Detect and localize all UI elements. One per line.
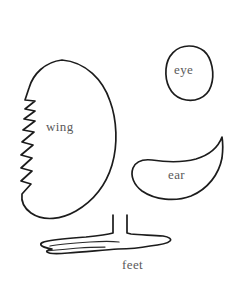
piece-label-feet: feet [122, 257, 143, 273]
pattern-shapes-canvas [0, 0, 248, 284]
wing-shape-icon[interactable] [21, 60, 116, 219]
piece-label-ear: ear [168, 167, 185, 183]
pattern-sheet: wing eye ear feet [0, 0, 248, 284]
piece-label-wing: wing [46, 119, 74, 135]
feet-shape-icon[interactable] [41, 215, 171, 254]
piece-label-eye: eye [174, 62, 193, 78]
